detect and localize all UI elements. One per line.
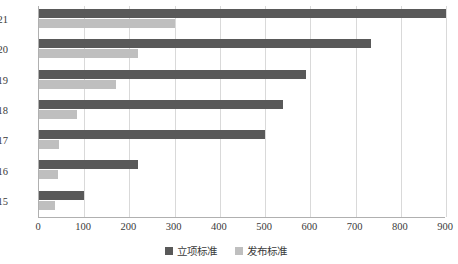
plot-area bbox=[38, 6, 445, 218]
y-axis-tick-label: 2019 bbox=[0, 75, 8, 86]
bar-secondary bbox=[39, 140, 59, 149]
x-axis-tick-label: 100 bbox=[63, 221, 103, 232]
x-axis-tick-label: 0 bbox=[18, 221, 58, 232]
x-axis-tick-label: 300 bbox=[154, 221, 194, 232]
y-axis-tick-label: 2017 bbox=[0, 135, 8, 146]
bar-secondary bbox=[39, 170, 58, 179]
bar-primary bbox=[39, 130, 265, 139]
x-axis-tick-label: 800 bbox=[380, 221, 420, 232]
bar-primary bbox=[39, 39, 371, 48]
bar-primary bbox=[39, 100, 283, 109]
bar-group bbox=[39, 36, 445, 66]
chart-legend: 立项标准发布标准 bbox=[0, 243, 452, 258]
x-axis-tick-label: 500 bbox=[244, 221, 284, 232]
bar-secondary bbox=[39, 201, 55, 210]
bar-primary bbox=[39, 191, 84, 200]
bar-group bbox=[39, 157, 445, 187]
legend-item[interactable]: 立项标准 bbox=[165, 243, 217, 258]
bar-secondary bbox=[39, 80, 116, 89]
bar-group bbox=[39, 6, 445, 36]
bar-group bbox=[39, 97, 445, 127]
bar-secondary bbox=[39, 110, 77, 119]
y-axis-tick-label: 2021 bbox=[0, 14, 8, 25]
legend-label: 发布标准 bbox=[247, 243, 287, 258]
gridline bbox=[446, 6, 447, 217]
y-axis-tick-label: 2015 bbox=[0, 196, 8, 207]
x-axis-tick-label: 200 bbox=[108, 221, 148, 232]
bar-group bbox=[39, 67, 445, 97]
y-axis-tick-label: 2020 bbox=[0, 44, 8, 55]
bar-primary bbox=[39, 9, 446, 18]
legend-item[interactable]: 发布标准 bbox=[235, 243, 287, 258]
bar-secondary bbox=[39, 49, 138, 58]
legend-swatch-icon bbox=[165, 247, 173, 255]
bar-group bbox=[39, 127, 445, 157]
legend-swatch-icon bbox=[235, 247, 243, 255]
bar-secondary bbox=[39, 19, 175, 28]
x-axis-tick-label: 400 bbox=[199, 221, 239, 232]
legend-label: 立项标准 bbox=[177, 243, 217, 258]
bar-primary bbox=[39, 160, 138, 169]
bar-primary bbox=[39, 70, 306, 79]
y-axis-tick-label: 2016 bbox=[0, 166, 8, 177]
x-axis-tick-label: 600 bbox=[289, 221, 329, 232]
y-axis-tick-label: 2018 bbox=[0, 105, 8, 116]
x-axis-tick-label: 900 bbox=[425, 221, 458, 232]
x-axis-tick-label: 700 bbox=[335, 221, 375, 232]
bar-group bbox=[39, 188, 445, 218]
